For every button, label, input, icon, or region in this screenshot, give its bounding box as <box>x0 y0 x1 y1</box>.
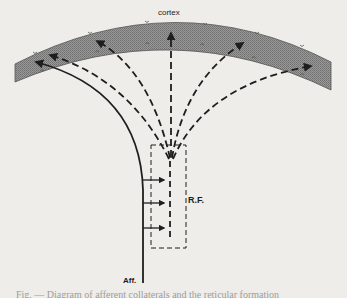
afferent-label: Aff. <box>123 276 136 285</box>
reticular-formation-box <box>151 145 186 248</box>
cortex-band <box>15 21 331 90</box>
cortex-label: cortex <box>158 8 180 17</box>
collateral-arrows <box>143 180 164 228</box>
diagram-svg <box>0 0 347 298</box>
rf-label: R.F. <box>188 195 204 205</box>
figure-caption: Fig. — Diagram of afferent collaterals a… <box>16 289 279 298</box>
diagram-canvas: cortex R.F. Aff. Fig. — Diagram of affer… <box>0 0 347 298</box>
afferent-pathway <box>36 62 143 283</box>
